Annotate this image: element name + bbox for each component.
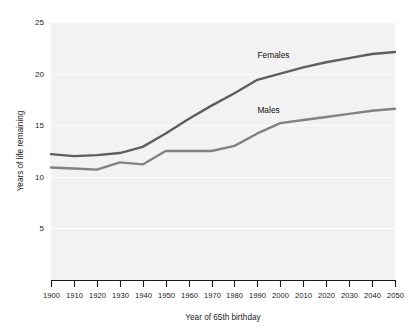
y-tick-labels-group: 510152025 [35,18,44,233]
x-tick-label-2000: 2000 [272,291,289,300]
x-tick-label-2030: 2030 [341,291,358,300]
life-expectancy-line-chart: 1900191019201930194019501960197019801990… [0,0,414,328]
x-tick-label-1970: 1970 [204,291,221,300]
y-tick-label-20: 20 [35,70,44,79]
x-tick-label-1960: 1960 [181,291,198,300]
x-tick-label-1980: 1980 [226,291,243,300]
chart-figure: 1900191019201930194019501960197019801990… [0,0,414,328]
y-tick-label-5: 5 [40,224,45,233]
y-tick-label-15: 15 [35,121,44,130]
series-annotation-males: Males [257,105,279,115]
x-tick-label-1950: 1950 [158,291,175,300]
x-tick-label-1910: 1910 [66,291,83,300]
y-tick-label-25: 25 [35,18,44,27]
x-tick-label-1990: 1990 [249,291,266,300]
x-tick-labels-group: 1900191019201930194019501960197019801990… [43,291,404,300]
y-tick-label-10: 10 [35,173,44,182]
x-tick-label-2010: 2010 [295,291,312,300]
x-tick-label-2040: 2040 [364,291,381,300]
x-tick-label-2020: 2020 [318,291,335,300]
x-tick-label-1930: 1930 [112,291,129,300]
x-tick-label-1940: 1940 [135,291,152,300]
y-axis-title: Years of life remaining [16,110,25,191]
plot-area-background [51,22,395,280]
x-axis-title: Year of 65th birthday [185,313,261,322]
x-tick-label-1920: 1920 [89,291,106,300]
x-tick-label-1900: 1900 [43,291,60,300]
x-tick-label-2050: 2050 [387,291,404,300]
series-annotation-females: Females [257,50,289,60]
